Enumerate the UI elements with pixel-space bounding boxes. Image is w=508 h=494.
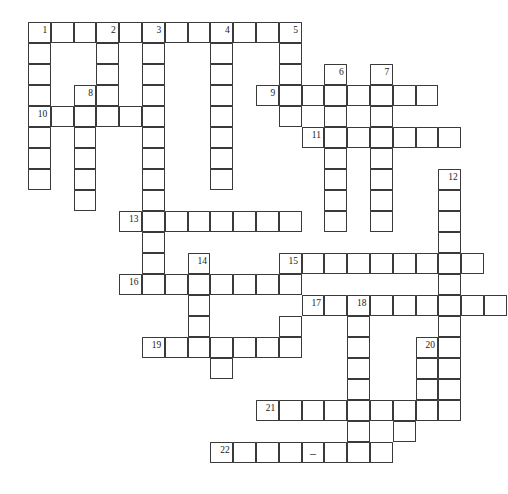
crossword-cell[interactable] xyxy=(256,337,279,358)
crossword-cell[interactable] xyxy=(256,22,279,43)
crossword-cell[interactable] xyxy=(279,43,302,64)
crossword-cell[interactable] xyxy=(370,253,393,274)
crossword-cell[interactable] xyxy=(74,190,97,211)
crossword-cell[interactable] xyxy=(96,64,119,85)
crossword-cell[interactable] xyxy=(438,253,461,274)
crossword-cell[interactable] xyxy=(188,22,211,43)
crossword-cell[interactable] xyxy=(393,253,416,274)
crossword-cell[interactable] xyxy=(142,337,165,358)
crossword-cell[interactable] xyxy=(416,379,439,400)
crossword-cell[interactable] xyxy=(370,295,393,316)
crossword-cell[interactable] xyxy=(142,64,165,85)
crossword-cell[interactable] xyxy=(279,253,302,274)
crossword-cell[interactable] xyxy=(438,232,461,253)
crossword-cell[interactable] xyxy=(438,274,461,295)
crossword-cell[interactable] xyxy=(347,295,370,316)
crossword-cell[interactable] xyxy=(416,295,439,316)
crossword-cell[interactable] xyxy=(28,169,51,190)
crossword-cell[interactable] xyxy=(461,295,484,316)
crossword-cell[interactable] xyxy=(210,148,233,169)
crossword-cell[interactable] xyxy=(142,106,165,127)
crossword-cell[interactable] xyxy=(142,43,165,64)
crossword-cell[interactable] xyxy=(74,148,97,169)
crossword-cell[interactable] xyxy=(142,274,165,295)
crossword-cell[interactable] xyxy=(302,127,325,148)
crossword-cell[interactable] xyxy=(256,85,279,106)
crossword-cell[interactable] xyxy=(438,316,461,337)
crossword-cell[interactable] xyxy=(347,85,370,106)
crossword-cell[interactable] xyxy=(142,85,165,106)
crossword-cell[interactable] xyxy=(347,337,370,358)
crossword-cell[interactable] xyxy=(370,64,393,85)
crossword-cell[interactable] xyxy=(210,358,233,379)
crossword-cell[interactable] xyxy=(256,442,279,463)
crossword-cell[interactable] xyxy=(347,400,370,421)
crossword-cell[interactable] xyxy=(119,106,142,127)
crossword-cell[interactable] xyxy=(324,106,347,127)
crossword-cell[interactable] xyxy=(393,400,416,421)
crossword-cell[interactable] xyxy=(279,316,302,337)
crossword-cell[interactable] xyxy=(393,421,416,442)
crossword-cell[interactable] xyxy=(256,274,279,295)
crossword-cell[interactable] xyxy=(142,253,165,274)
crossword-cell[interactable] xyxy=(142,148,165,169)
crossword-cell[interactable] xyxy=(438,211,461,232)
crossword-cell[interactable] xyxy=(370,106,393,127)
crossword-cell[interactable] xyxy=(324,85,347,106)
crossword-cell[interactable] xyxy=(416,337,439,358)
crossword-cell[interactable] xyxy=(210,43,233,64)
crossword-cell[interactable] xyxy=(324,400,347,421)
crossword-cell[interactable] xyxy=(416,358,439,379)
crossword-cell[interactable] xyxy=(393,127,416,148)
crossword-cell[interactable] xyxy=(210,106,233,127)
crossword-cell[interactable] xyxy=(28,127,51,148)
crossword-cell[interactable] xyxy=(188,211,211,232)
crossword-cell[interactable] xyxy=(28,106,51,127)
crossword-cell[interactable] xyxy=(142,22,165,43)
crossword-cell[interactable] xyxy=(96,43,119,64)
crossword-cell[interactable] xyxy=(74,169,97,190)
crossword-cell[interactable] xyxy=(324,211,347,232)
crossword-cell[interactable] xyxy=(416,400,439,421)
crossword-cell[interactable] xyxy=(188,274,211,295)
crossword-cell[interactable] xyxy=(279,22,302,43)
crossword-cell[interactable] xyxy=(370,442,393,463)
crossword-cell[interactable] xyxy=(74,22,97,43)
crossword-cell[interactable] xyxy=(210,22,233,43)
crossword-cell[interactable] xyxy=(438,358,461,379)
crossword-cell[interactable] xyxy=(438,295,461,316)
crossword-cell[interactable] xyxy=(279,337,302,358)
crossword-cell[interactable] xyxy=(302,442,325,463)
crossword-cell[interactable] xyxy=(233,211,256,232)
crossword-cell[interactable] xyxy=(96,22,119,43)
crossword-cell[interactable] xyxy=(370,85,393,106)
crossword-cell[interactable] xyxy=(188,337,211,358)
crossword-cell[interactable] xyxy=(142,211,165,232)
crossword-cell[interactable] xyxy=(165,22,188,43)
crossword-cell[interactable] xyxy=(279,85,302,106)
crossword-cell[interactable] xyxy=(210,337,233,358)
crossword-cell[interactable] xyxy=(188,295,211,316)
crossword-cell[interactable] xyxy=(233,442,256,463)
crossword-cell[interactable] xyxy=(210,169,233,190)
crossword-cell[interactable] xyxy=(165,211,188,232)
crossword-cell[interactable] xyxy=(28,43,51,64)
crossword-cell[interactable] xyxy=(279,64,302,85)
crossword-cell[interactable] xyxy=(324,442,347,463)
crossword-cell[interactable] xyxy=(28,148,51,169)
crossword-cell[interactable] xyxy=(393,85,416,106)
crossword-cell[interactable] xyxy=(324,253,347,274)
crossword-cell[interactable] xyxy=(119,211,142,232)
crossword-cell[interactable] xyxy=(279,442,302,463)
crossword-grid[interactable]: 12345678910111213141516171819202122– xyxy=(0,0,508,494)
crossword-cell[interactable] xyxy=(210,211,233,232)
crossword-cell[interactable] xyxy=(438,127,461,148)
crossword-cell[interactable] xyxy=(302,295,325,316)
crossword-cell[interactable] xyxy=(393,295,416,316)
crossword-cell[interactable] xyxy=(279,400,302,421)
crossword-cell[interactable] xyxy=(96,106,119,127)
crossword-cell[interactable] xyxy=(28,85,51,106)
crossword-cell[interactable] xyxy=(370,190,393,211)
crossword-cell[interactable] xyxy=(438,379,461,400)
crossword-cell[interactable] xyxy=(233,337,256,358)
